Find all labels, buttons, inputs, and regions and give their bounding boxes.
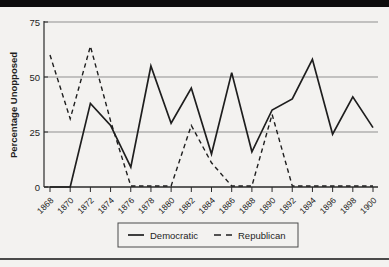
x-tick-label-1876: 1876	[116, 195, 137, 216]
legend-label-democratic: Democratic	[150, 230, 198, 241]
y-axis-title: Percentage Unopposed	[8, 52, 19, 158]
x-tick-label-1868: 1868	[35, 195, 56, 216]
x-tick-label-1880: 1880	[156, 195, 177, 216]
y-tick-label-25: 25	[29, 127, 40, 138]
unopposed-percentage-line-chart: 0255075186818701872187418761878188018821…	[0, 0, 389, 267]
x-tick-label-1898: 1898	[338, 195, 359, 216]
x-tick-label-1882: 1882	[176, 195, 197, 216]
x-tick-label-1884: 1884	[196, 195, 217, 216]
x-tick-label-1872: 1872	[75, 195, 96, 216]
series-line-republican	[50, 46, 373, 186]
x-tick-label-1888: 1888	[237, 195, 258, 216]
legend-label-republican: Republican	[238, 230, 286, 241]
y-tick-label-0: 0	[35, 182, 40, 193]
x-tick-label-1894: 1894	[297, 195, 318, 216]
x-tick-label-1874: 1874	[96, 195, 117, 216]
figure-page: 0255075186818701872187418761878188018821…	[0, 0, 389, 267]
y-tick-label-50: 50	[29, 72, 40, 83]
page-bottom-rule	[0, 258, 389, 260]
x-tick-label-1870: 1870	[55, 195, 76, 216]
x-tick-label-1878: 1878	[136, 195, 157, 216]
x-tick-label-1886: 1886	[217, 195, 238, 216]
x-tick-label-1892: 1892	[277, 195, 298, 216]
y-tick-label-75: 75	[29, 17, 40, 28]
series-line-democratic	[50, 59, 373, 187]
x-tick-label-1896: 1896	[318, 195, 339, 216]
x-tick-label-1900: 1900	[358, 195, 379, 216]
x-tick-label-1890: 1890	[257, 195, 278, 216]
